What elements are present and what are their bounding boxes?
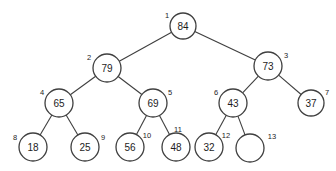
- node-value: 43: [227, 98, 239, 109]
- node-value: 65: [53, 98, 65, 109]
- edges-layer: [40, 32, 301, 135]
- node-index-label: 9: [101, 133, 105, 142]
- node-index-label: 8: [13, 133, 17, 142]
- tree-edge: [118, 76, 142, 94]
- binary-tree-diagram: 8417927336546954363771882595610481132121…: [0, 0, 336, 171]
- node-value: 37: [305, 98, 317, 109]
- node-index-label: 5: [168, 88, 172, 97]
- tree-edge: [195, 32, 256, 61]
- node-index-label: 10: [143, 131, 151, 140]
- node-value: 73: [262, 61, 274, 72]
- tree-node[interactable]: 188: [13, 133, 47, 162]
- node-index-label: 11: [174, 125, 182, 134]
- node-index-label: 2: [87, 53, 91, 62]
- tree-edge: [159, 115, 169, 134]
- tree-edge: [243, 76, 259, 93]
- node-value: 25: [79, 142, 91, 153]
- tree-node[interactable]: 3212: [195, 131, 230, 162]
- tree-node[interactable]: 5610: [116, 131, 151, 162]
- node-value: 18: [27, 142, 39, 153]
- tree-node[interactable]: 4811: [162, 125, 190, 162]
- tree-node[interactable]: 13: [236, 132, 276, 163]
- tree-edge: [279, 75, 302, 94]
- tree-canvas: 8417927336546954363771882595610481132121…: [0, 0, 336, 171]
- node-index-label: 1: [165, 11, 169, 20]
- node-value: 69: [147, 98, 159, 109]
- tree-node[interactable]: 695: [139, 88, 172, 118]
- node-index-label: 13: [268, 132, 276, 141]
- tree-node[interactable]: 792: [87, 53, 121, 83]
- node-value: 84: [177, 21, 189, 32]
- node-index-label: 7: [325, 88, 329, 97]
- tree-edge: [66, 115, 78, 135]
- tree-edge: [119, 32, 171, 61]
- node-index-label: 12: [222, 131, 230, 140]
- tree-node[interactable]: 259: [71, 133, 105, 162]
- node-index-label: 3: [284, 51, 288, 60]
- tree-edge: [70, 76, 95, 95]
- node-index-label: 4: [40, 88, 44, 97]
- tree-node[interactable]: 841: [165, 11, 196, 40]
- node-value: 48: [170, 142, 182, 153]
- tree-node[interactable]: 377: [298, 88, 329, 117]
- node-index-label: 6: [214, 88, 218, 97]
- tree-node[interactable]: 436: [214, 88, 247, 118]
- tree-node[interactable]: 654: [40, 88, 73, 118]
- node-value: 32: [203, 142, 215, 153]
- node-circle[interactable]: [236, 134, 264, 162]
- tree-edge: [40, 115, 52, 135]
- node-value: 79: [101, 63, 113, 74]
- tree-edge: [238, 116, 245, 135]
- node-value: 56: [124, 142, 136, 153]
- tree-node[interactable]: 733: [254, 51, 288, 81]
